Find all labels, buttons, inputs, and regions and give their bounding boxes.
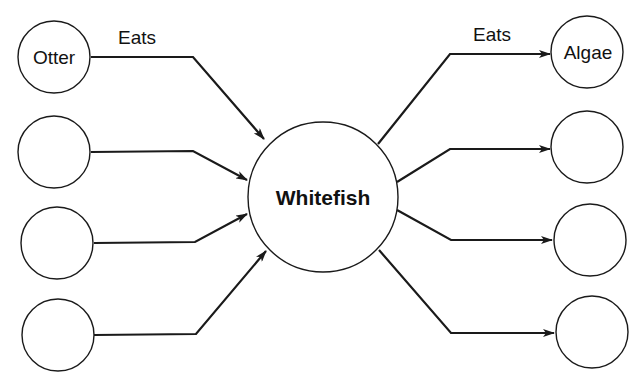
node-label: Algae bbox=[564, 42, 613, 63]
left-node-3 bbox=[21, 207, 93, 279]
left-node-2 bbox=[18, 116, 90, 188]
left-node-otter: Otter bbox=[18, 21, 90, 93]
edge-label-left-eats: Eats bbox=[118, 27, 156, 48]
edge-whitefish-to-right-3 bbox=[397, 210, 552, 240]
right-node-algae: Algae bbox=[551, 16, 623, 88]
center-label: Whitefish bbox=[276, 186, 371, 209]
edge-whitefish-to-right-2 bbox=[397, 149, 550, 182]
right-node-3 bbox=[554, 204, 626, 276]
edge-label-right-eats: Eats bbox=[473, 24, 511, 45]
node-label: Otter bbox=[33, 47, 76, 68]
center-node-whitefish: Whitefish bbox=[248, 122, 398, 272]
edge-left-3-to-whitefish bbox=[94, 214, 247, 243]
edge-otter-to-whitefish bbox=[91, 57, 264, 139]
edge-whitefish-to-algae bbox=[378, 54, 550, 144]
food-web-diagram: Otter Whitefish Algae Eats Eats bbox=[0, 0, 639, 386]
right-node-2 bbox=[551, 111, 623, 183]
edge-whitefish-to-right-4 bbox=[379, 250, 554, 333]
right-node-4 bbox=[556, 296, 628, 368]
left-node-4 bbox=[22, 299, 94, 371]
edge-left-2-to-whitefish bbox=[91, 151, 247, 180]
edge-left-4-to-whitefish bbox=[94, 251, 266, 335]
